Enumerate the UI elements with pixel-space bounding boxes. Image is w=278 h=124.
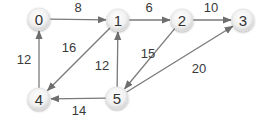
edge-0-to-1 (50, 19, 106, 20)
edge-weight-label: 16 (62, 40, 76, 55)
node-label: 1 (114, 12, 122, 29)
edge-weight-label: 8 (74, 0, 81, 15)
node-label: 2 (178, 12, 186, 29)
edge-5-to-4 (51, 98, 106, 99)
edge-weight-label: 15 (141, 46, 155, 61)
node-label: 0 (35, 11, 43, 28)
node-label: 4 (35, 91, 43, 108)
edge-weight-label: 10 (204, 0, 218, 15)
edge-weight-label: 14 (72, 103, 86, 118)
edge-weight-label: 6 (145, 0, 152, 15)
node-3: 3 (232, 9, 254, 31)
edge-weight-label: 12 (95, 58, 109, 73)
edge-5-to-1 (117, 32, 118, 87)
node-2: 2 (171, 9, 193, 31)
graph-diagram: 8610161212152014 012345 (0, 0, 278, 124)
node-4: 4 (28, 88, 50, 110)
node-label: 3 (239, 12, 247, 29)
edges-layer (39, 19, 233, 99)
node-1: 1 (107, 9, 129, 31)
node-5: 5 (106, 87, 128, 109)
node-label: 5 (113, 90, 121, 107)
edge-weight-label: 12 (17, 52, 31, 67)
edge-weight-label: 20 (192, 61, 206, 76)
node-0: 0 (28, 8, 50, 30)
